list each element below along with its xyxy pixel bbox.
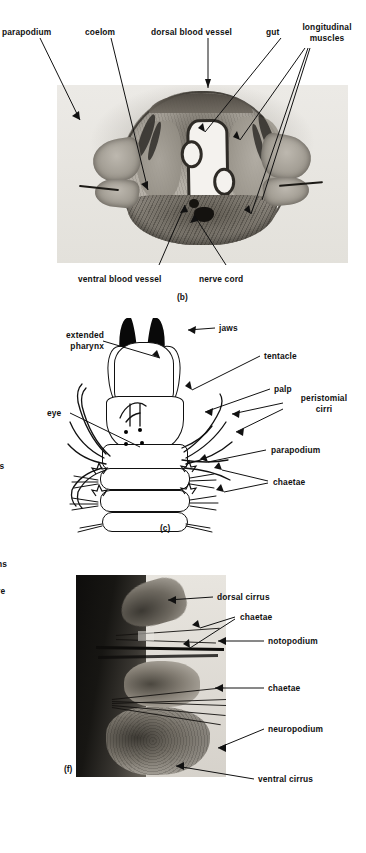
label-neuropodium: neuropodium xyxy=(268,724,323,735)
label-chaetae-f-lower: chaetae xyxy=(268,683,300,694)
worm-cross-section xyxy=(93,91,308,251)
figure-plate: parapodium coelom dorsal blood vessel gu… xyxy=(0,0,366,853)
panel-b-caption: (b) xyxy=(177,292,188,302)
nerve-cord xyxy=(194,207,214,222)
label-parapodium-b: parapodium xyxy=(2,27,51,38)
label-extended-pharynx: extended pharynx xyxy=(38,330,104,351)
label-peristomial-cirri: peristomial cirri xyxy=(286,393,362,414)
label-chaetae-f-upper: chaetae xyxy=(240,612,272,623)
label-parapodium-c: parapodium xyxy=(271,445,320,456)
label-gut: gut xyxy=(266,27,279,38)
label-longitudinal-muscles: longitudinal muscles xyxy=(291,22,363,43)
neuropodium-lobe xyxy=(106,707,210,775)
clipped-margin-text: re xyxy=(0,586,5,597)
clipped-margin-text: is xyxy=(0,461,4,472)
clipped-margin-text: ns xyxy=(0,559,7,570)
label-coelom: coelom xyxy=(85,27,115,38)
dorsal-epidermis xyxy=(149,93,253,113)
label-dorsal-blood-vessel: dorsal blood vessel xyxy=(151,27,232,38)
panel-c-drawing xyxy=(62,318,272,540)
parapodium-right-lower xyxy=(262,175,311,208)
label-ventral-cirrus: ventral cirrus xyxy=(258,774,313,785)
label-chaetae-c: chaetae xyxy=(273,477,305,488)
panel-c-linework xyxy=(62,318,272,540)
ventral-blood-vessel xyxy=(189,199,199,208)
panel-c-caption: (c) xyxy=(160,523,170,533)
panel-b-micrograph xyxy=(57,85,348,263)
label-nerve-cord: nerve cord xyxy=(199,274,243,285)
label-tentacle: tentacle xyxy=(264,351,297,362)
label-dorsal-cirrus: dorsal cirrus xyxy=(217,592,270,603)
label-ventral-blood-vessel: ventral blood vessel xyxy=(78,274,162,285)
label-jaws: jaws xyxy=(219,323,238,334)
panel-f-caption: (f) xyxy=(64,764,72,774)
label-eye: eye xyxy=(47,408,61,419)
parapodium-left-lower xyxy=(94,177,141,209)
tissue-gap xyxy=(138,631,154,641)
panel-f-micrograph xyxy=(76,575,226,777)
label-notopodium: notopodium xyxy=(268,636,318,647)
